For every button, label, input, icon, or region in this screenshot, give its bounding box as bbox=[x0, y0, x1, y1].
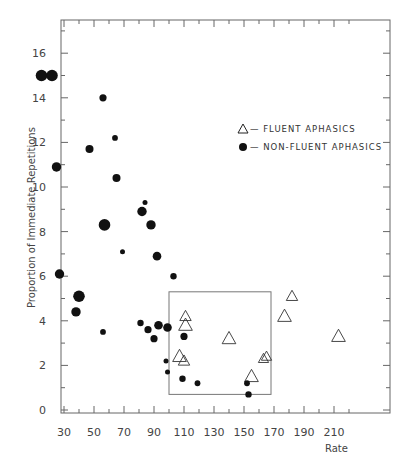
non-fluent-point bbox=[164, 358, 169, 363]
legend-fluent-label: — FLUENT APHASICS bbox=[250, 124, 356, 134]
y-tick-label: 16 bbox=[32, 47, 46, 60]
x-axis-title: Rate bbox=[325, 443, 348, 454]
x-tick-label: 190 bbox=[294, 426, 315, 439]
x-tick-label: 150 bbox=[234, 426, 255, 439]
non-fluent-point bbox=[150, 335, 157, 342]
x-tick-label: 110 bbox=[174, 426, 195, 439]
non-fluent-point bbox=[163, 323, 172, 332]
data-points bbox=[36, 70, 346, 398]
non-fluent-point bbox=[71, 307, 80, 316]
y-tick-label: 8 bbox=[39, 226, 46, 239]
y-tick-label: 0 bbox=[39, 404, 46, 417]
fluent-point bbox=[286, 290, 297, 300]
non-fluent-point bbox=[245, 391, 251, 397]
non-fluent-point bbox=[170, 273, 176, 279]
legend-nonfluent-label: — NON-FLUENT APHASICS bbox=[250, 142, 382, 152]
non-fluent-point bbox=[113, 174, 121, 182]
non-fluent-point bbox=[180, 333, 187, 340]
x-tick-label: 170 bbox=[264, 426, 285, 439]
y-tick-label: 2 bbox=[39, 359, 46, 372]
non-fluent-point bbox=[195, 380, 201, 386]
non-fluent-point bbox=[52, 162, 61, 171]
non-fluent-point bbox=[137, 320, 143, 326]
non-fluent-point bbox=[244, 380, 250, 386]
non-fluent-point bbox=[99, 94, 106, 101]
fluent-point bbox=[245, 369, 259, 381]
non-fluent-point bbox=[165, 370, 170, 375]
non-fluent-point bbox=[146, 220, 155, 229]
fluent-point bbox=[179, 318, 193, 330]
fluent-point bbox=[222, 331, 236, 343]
non-fluent-point bbox=[154, 321, 163, 330]
x-tick-label: 70 bbox=[117, 426, 131, 439]
y-tick-label: 4 bbox=[39, 315, 46, 328]
plot-frame bbox=[61, 20, 390, 413]
non-fluent-point bbox=[153, 252, 162, 261]
scatter-chart: 30507090110130150170190210 0246810121416… bbox=[0, 0, 408, 468]
triangle-legend-icon bbox=[238, 124, 248, 133]
fluent-point bbox=[180, 310, 191, 320]
non-fluent-point bbox=[137, 207, 146, 216]
x-tick-label: 210 bbox=[324, 426, 345, 439]
non-fluent-point bbox=[120, 249, 125, 254]
non-fluent-point bbox=[46, 70, 58, 82]
fluent-point bbox=[332, 329, 346, 341]
non-fluent-point bbox=[112, 135, 118, 141]
non-fluent-point bbox=[36, 70, 48, 82]
y-tick-label: 6 bbox=[39, 270, 46, 283]
non-fluent-point bbox=[55, 269, 64, 278]
x-tick-label: 130 bbox=[204, 426, 225, 439]
non-fluent-point bbox=[100, 329, 106, 335]
fluent-point bbox=[258, 353, 268, 362]
y-tick-label: 14 bbox=[32, 92, 46, 105]
fluent-point bbox=[278, 309, 292, 321]
x-tick-label: 50 bbox=[87, 426, 101, 439]
circle-legend-icon bbox=[239, 143, 247, 151]
y-axis-title: Proportion of Immediate Repetitions bbox=[26, 127, 37, 308]
non-fluent-point bbox=[179, 376, 185, 382]
legend: — FLUENT APHASICS — NON-FLUENT APHASICS bbox=[238, 124, 382, 152]
x-tick-label: 90 bbox=[147, 426, 161, 439]
x-tick-label: 30 bbox=[57, 426, 71, 439]
non-fluent-point bbox=[86, 145, 94, 153]
non-fluent-point bbox=[73, 290, 85, 302]
non-fluent-point bbox=[99, 219, 111, 231]
non-fluent-point bbox=[144, 326, 151, 333]
x-tick-labels: 30507090110130150170190210 bbox=[57, 426, 345, 439]
axis-ticks bbox=[61, 20, 390, 413]
non-fluent-point bbox=[143, 200, 148, 205]
